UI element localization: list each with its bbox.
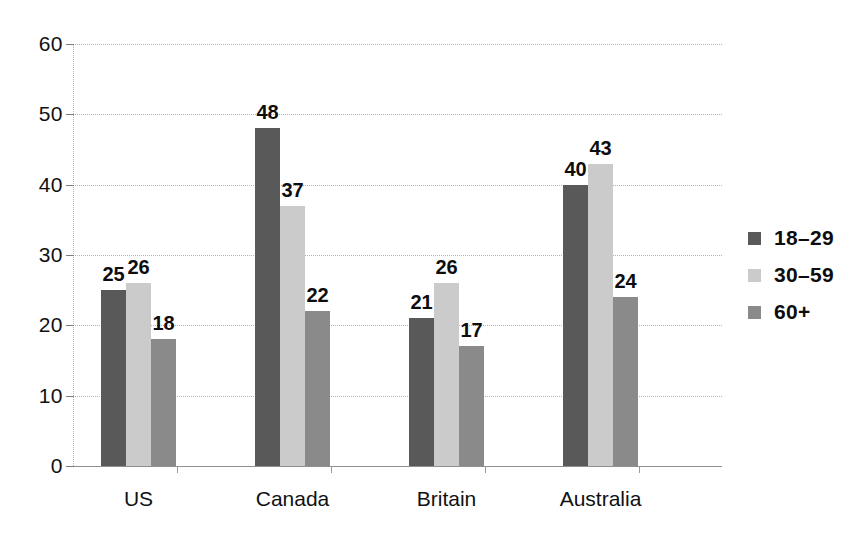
- legend-label: 18–29: [774, 226, 834, 250]
- x-axis-category-label: Britain: [417, 487, 477, 511]
- bar: [434, 283, 459, 466]
- x-axis-category-label: US: [124, 487, 153, 511]
- y-tick-mark-10: [66, 396, 74, 397]
- x-axis-tick-mark: [331, 466, 332, 473]
- y-tick-mark-40: [66, 185, 74, 186]
- bar-value-label: 18: [139, 312, 188, 335]
- x-axis-tick-mark: [177, 466, 178, 473]
- bar-value-label: 37: [268, 179, 317, 202]
- y-axis-tick-label: 40: [17, 172, 63, 196]
- y-axis-tick-label: 0: [17, 454, 63, 478]
- legend-item: 18–29: [748, 226, 834, 250]
- legend-item: 30–59: [748, 263, 834, 287]
- legend-label: 30–59: [774, 263, 834, 287]
- y-axis-tick-label: 50: [17, 102, 63, 126]
- x-axis-tick-mark: [485, 466, 486, 473]
- bar-chart: 252618483722212617404324 0102030405060 U…: [0, 0, 859, 536]
- bar: [280, 206, 305, 466]
- bar: [101, 290, 126, 466]
- bar: [613, 297, 638, 466]
- gridline-60: [73, 44, 722, 45]
- gridline-50: [73, 114, 722, 115]
- bar-value-label: 24: [601, 270, 650, 293]
- bar: [459, 346, 484, 466]
- y-tick-mark-0: [66, 466, 74, 467]
- gridline-30: [73, 255, 722, 256]
- bar: [563, 185, 588, 466]
- y-tick-mark-50: [66, 114, 74, 115]
- legend-swatch-icon: [748, 232, 761, 245]
- y-tick-mark-60: [66, 44, 74, 45]
- y-tick-mark-20: [66, 325, 74, 326]
- y-axis-tick-label: 20: [17, 313, 63, 337]
- y-axis-tick-label: 10: [17, 383, 63, 407]
- bar-value-label: 26: [114, 256, 163, 279]
- bar: [409, 318, 434, 466]
- bar-value-label: 17: [447, 319, 496, 342]
- x-axis-category-label: Canada: [256, 487, 330, 511]
- legend-swatch-icon: [748, 269, 761, 282]
- legend-item: 60+: [748, 300, 811, 324]
- bar: [588, 164, 613, 466]
- gridline-0: [73, 466, 722, 467]
- y-axis-tick-label: 60: [17, 32, 63, 56]
- plot-area: 252618483722212617404324: [73, 44, 722, 466]
- bar-value-label: 43: [576, 137, 625, 160]
- bar: [305, 311, 330, 466]
- bar-value-label: 26: [422, 256, 471, 279]
- x-axis-tick-mark: [639, 466, 640, 473]
- legend-label: 60+: [774, 300, 811, 324]
- bar-value-label: 48: [243, 101, 292, 124]
- y-axis-tick-label: 30: [17, 243, 63, 267]
- bar: [151, 339, 176, 466]
- bar: [126, 283, 151, 466]
- y-tick-mark-30: [66, 255, 74, 256]
- gridline-40: [73, 185, 722, 186]
- legend-swatch-icon: [748, 306, 761, 319]
- x-axis-category-label: Australia: [560, 487, 642, 511]
- bar-value-label: 22: [293, 284, 342, 307]
